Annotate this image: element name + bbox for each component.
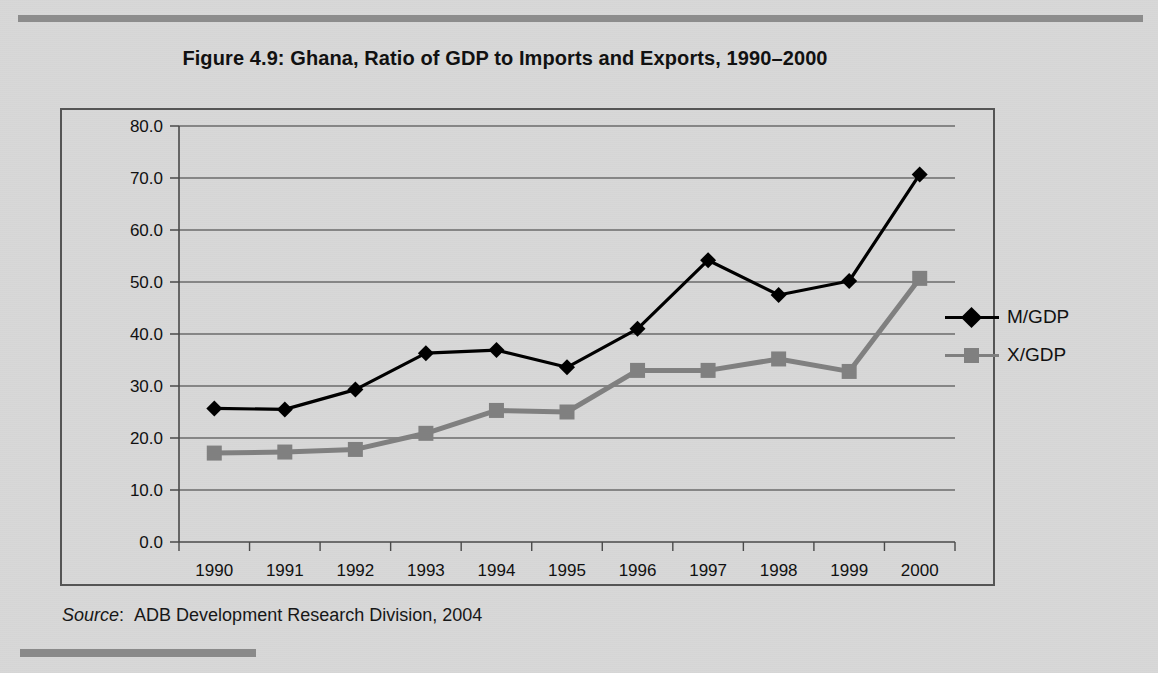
x-axis-tick-label: 2000 bbox=[901, 561, 939, 580]
data-point-diamond-marker bbox=[206, 400, 222, 416]
x-axis-tick-label: 1991 bbox=[266, 561, 304, 580]
data-point-square-marker bbox=[418, 426, 433, 441]
chart-legend: M/GDP X/GDP bbox=[945, 298, 1135, 374]
y-axis-tick-label: 40.0 bbox=[130, 325, 163, 344]
y-axis-tick-label: 50.0 bbox=[130, 273, 163, 292]
legend-swatch-m-gdp bbox=[945, 308, 999, 326]
y-axis-tick-label: 30.0 bbox=[130, 377, 163, 396]
chart-frame: 0.010.020.030.040.050.060.070.080.019901… bbox=[60, 108, 995, 586]
y-axis-tick-label: 70.0 bbox=[130, 169, 163, 188]
x-axis-tick-label: 1995 bbox=[548, 561, 586, 580]
data-point-diamond-marker bbox=[347, 382, 363, 398]
source-note: Source: ADB Development Research Divisio… bbox=[62, 605, 482, 626]
legend-swatch-x-gdp bbox=[945, 346, 999, 364]
legend-item-m-gdp: M/GDP bbox=[945, 298, 1135, 336]
x-axis-tick-label: 1994 bbox=[478, 561, 516, 580]
x-axis-tick-label: 1998 bbox=[760, 561, 798, 580]
data-point-square-marker bbox=[701, 363, 716, 378]
data-point-diamond-marker bbox=[771, 287, 787, 303]
data-point-diamond-marker bbox=[277, 401, 293, 417]
data-point-square-marker bbox=[842, 364, 857, 379]
data-point-square-marker bbox=[630, 363, 645, 378]
data-point-square-marker bbox=[277, 445, 292, 460]
figure-title: Figure 4.9: Ghana, Ratio of GDP to Impor… bbox=[0, 47, 1010, 70]
data-point-square-marker bbox=[771, 351, 786, 366]
source-label: Source bbox=[62, 605, 119, 625]
x-axis-tick-label: 1993 bbox=[407, 561, 445, 580]
data-point-diamond-marker bbox=[418, 345, 434, 361]
diamond-marker-icon bbox=[961, 307, 982, 328]
data-point-square-marker bbox=[489, 403, 504, 418]
y-axis-tick-label: 80.0 bbox=[130, 117, 163, 136]
y-axis-tick-label: 60.0 bbox=[130, 221, 163, 240]
legend-label-m-gdp: M/GDP bbox=[1007, 306, 1069, 328]
x-axis-tick-label: 1992 bbox=[336, 561, 374, 580]
x-axis-tick-label: 1997 bbox=[689, 561, 727, 580]
square-marker-icon bbox=[964, 348, 979, 363]
legend-label-x-gdp: X/GDP bbox=[1007, 344, 1066, 366]
plot-area: 0.010.020.030.040.050.060.070.080.019901… bbox=[62, 110, 997, 588]
y-axis-tick-label: 20.0 bbox=[130, 429, 163, 448]
data-point-square-marker bbox=[207, 446, 222, 461]
y-axis-tick-label: 10.0 bbox=[130, 481, 163, 500]
x-axis-tick-label: 1990 bbox=[195, 561, 233, 580]
source-text: ADB Development Research Division, 2004 bbox=[134, 605, 482, 625]
y-axis-tick-label: 0.0 bbox=[139, 533, 163, 552]
top-divider-rule bbox=[18, 15, 1143, 22]
data-point-square-marker bbox=[560, 405, 575, 420]
data-point-diamond-marker bbox=[489, 342, 505, 358]
line-chart-svg: 0.010.020.030.040.050.060.070.080.019901… bbox=[62, 110, 997, 588]
data-point-square-marker bbox=[348, 442, 363, 457]
x-axis-tick-label: 1999 bbox=[830, 561, 868, 580]
data-point-diamond-marker bbox=[559, 359, 575, 375]
x-axis-tick-label: 1996 bbox=[619, 561, 657, 580]
legend-item-x-gdp: X/GDP bbox=[945, 336, 1135, 374]
data-point-square-marker bbox=[912, 271, 927, 286]
source-separator: : bbox=[119, 605, 124, 625]
bottom-divider-rule bbox=[20, 649, 256, 657]
